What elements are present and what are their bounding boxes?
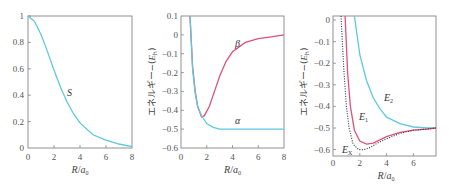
panel-coulomb-resonance: エネルギー−(Eh) 0.1 0 −0.1 −0.2 −0.3 −0.4 −0.… [147, 11, 287, 176]
x-tick-label: 4 [78, 152, 83, 162]
x-tick-label: 2 [205, 152, 210, 162]
figure-canvas: 1 0.8 0.6 0.4 0.2 0 0 2 4 6 8 R/a0 S エネル… [0, 0, 449, 186]
plot-frame [28, 16, 132, 148]
y-tick-label: −0.6 [314, 145, 331, 155]
x-tick-label: 6 [104, 152, 109, 162]
x-tick-label: 8 [282, 152, 287, 162]
x-axis: 0 2 4 6 8 R/a0 [26, 145, 135, 176]
y-tick-label: 0.1 [167, 11, 178, 21]
x-axis-label: R/a0 [377, 170, 395, 182]
x-tick-label: 2 [358, 158, 363, 168]
curve-E1 [345, 16, 436, 144]
x-axis-label: R/a0 [223, 164, 241, 176]
y-tick-label: 0 [174, 30, 179, 40]
x-tick-label: 6 [256, 152, 261, 162]
x-tick-label: 0 [26, 152, 31, 162]
y-tick-label: −0.4 [314, 101, 331, 111]
x-tick-label: 4 [384, 158, 389, 168]
y-tick-label: 1 [20, 11, 25, 21]
plot-frame [181, 16, 284, 148]
x-tick-label: 6 [411, 158, 416, 168]
y-tick-label: 0 [20, 143, 25, 153]
x-axis-label: R/a0 [71, 164, 89, 176]
y-axis-label: エネルギー−(Eh) [147, 48, 158, 117]
y-tick-label: −0.5 [314, 123, 331, 133]
x-axis: 0 2 4 6 R/a0 [331, 153, 416, 182]
y-tick-label: −0.2 [314, 58, 330, 68]
x-tick-label: 0 [179, 152, 184, 162]
y-tick-label: −0.2 [162, 68, 178, 78]
panel-energy-levels: エネルギー−(Eh) 0 −0.1 −0.2 −0.3 −0.4 −0.5 −0… [299, 15, 436, 182]
curve-alpha [190, 16, 284, 129]
y-tick-label: 0 [326, 15, 331, 25]
y-tick-label: −0.1 [162, 49, 178, 59]
y-tick-label: −0.5 [162, 124, 179, 134]
x-tick-label: 0 [331, 158, 336, 168]
panel-overlap-integral: 1 0.8 0.6 0.4 0.2 0 0 2 4 6 8 R/a0 S [13, 11, 135, 176]
curve-E2 [354, 16, 436, 128]
y-tick-label: −0.3 [162, 86, 179, 96]
curve-label-E1: E1 [358, 111, 368, 123]
curve-label-beta: β [234, 38, 240, 49]
x-tick-label: 4 [230, 152, 235, 162]
y-tick-label: 0.2 [13, 117, 24, 127]
y-tick-label: −0.4 [162, 105, 179, 115]
curve-S [28, 16, 132, 147]
y-tick-label: 0.4 [13, 90, 25, 100]
y-tick-label: −0.3 [314, 80, 331, 90]
y-tick-label: 0.8 [13, 37, 25, 47]
x-tick-label: 8 [130, 152, 135, 162]
y-axis-label: エネルギー−(Eh) [299, 48, 310, 117]
curve-beta [190, 16, 284, 117]
curve-label-alpha: α [235, 115, 241, 126]
y-tick-label: −0.1 [314, 37, 330, 47]
x-tick-label: 2 [52, 152, 57, 162]
y-tick-label: 0.6 [13, 64, 25, 74]
curve-label-EX: EX [341, 144, 353, 156]
y-tick-label: −0.6 [162, 143, 179, 153]
x-axis: 0 2 4 6 8 R/a0 [179, 145, 287, 176]
curve-label-S: S [67, 87, 72, 98]
curve-label-E2: E2 [383, 92, 393, 104]
